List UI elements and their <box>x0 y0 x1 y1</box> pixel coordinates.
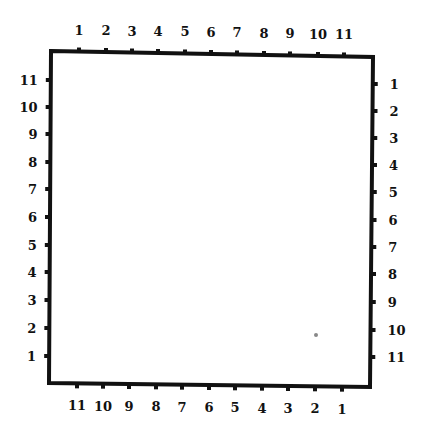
pin-label: 4 <box>28 265 37 280</box>
pin-label: 1 <box>27 349 36 364</box>
pin-label: 8 <box>151 399 160 414</box>
pin-label: 2 <box>27 321 36 336</box>
pin-label: 1 <box>74 23 83 38</box>
pin-label: 5 <box>389 185 398 200</box>
pin-label: 11 <box>387 350 405 365</box>
pin-label: 3 <box>389 131 398 146</box>
pin-label: 8 <box>259 26 268 41</box>
pin-label: 1 <box>337 402 346 417</box>
pin-label: 7 <box>388 240 397 255</box>
pin-label: 7 <box>177 400 186 415</box>
pin-ticks <box>44 48 378 392</box>
pin-label: 6 <box>389 213 398 228</box>
stray-dot <box>314 333 318 337</box>
pin-label: 10 <box>94 399 112 414</box>
square-outline <box>49 51 373 387</box>
pin-label: 10 <box>309 27 327 42</box>
pin-label: 3 <box>127 24 136 39</box>
pin-label: 6 <box>28 210 37 225</box>
pin-label: 11 <box>335 27 353 42</box>
pin-label: 2 <box>101 23 110 38</box>
pin-label: 1 <box>390 77 399 92</box>
pin-label: 11 <box>68 398 86 413</box>
pin-label: 7 <box>232 25 241 40</box>
pin-label: 4 <box>153 24 162 39</box>
pin-label: 10 <box>20 100 38 115</box>
pin-label: 11 <box>20 73 38 88</box>
pin-label: 9 <box>285 26 294 41</box>
pin-label: 6 <box>206 25 215 40</box>
pin-label: 9 <box>124 399 133 414</box>
pin-label: 3 <box>283 401 292 416</box>
pin-label: 9 <box>388 295 397 310</box>
pin-label: 4 <box>389 158 398 173</box>
pin-label: 2 <box>310 401 319 416</box>
pin-label: 8 <box>388 267 397 282</box>
pin-label: 5 <box>28 238 37 253</box>
pin-label: 5 <box>180 24 189 39</box>
pin-label: 9 <box>28 127 37 142</box>
pin-label: 7 <box>28 182 37 197</box>
pin-label: 3 <box>27 293 36 308</box>
pin-label: 8 <box>28 155 37 170</box>
pin-label: 10 <box>388 323 406 338</box>
pin-label: 6 <box>204 400 213 415</box>
pin-labels: 1234567891011123456789101111109876543211… <box>20 23 406 417</box>
pin-label: 4 <box>257 401 266 416</box>
square-diagram: 1234567891011123456789101111109876543211… <box>0 0 422 441</box>
pin-label: 5 <box>230 400 239 415</box>
pin-label: 2 <box>390 104 399 119</box>
